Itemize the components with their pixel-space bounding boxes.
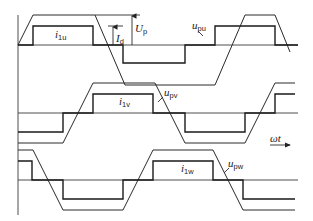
current-waveform-u [18, 26, 298, 63]
current-label-v: i1v [119, 95, 130, 109]
upv-leader-line [158, 97, 163, 102]
current-label-u: i1u [55, 28, 66, 42]
id-label: Id [115, 32, 124, 46]
panel-phase-u: i1u Id Up upu [18, 15, 298, 85]
voltage-label-w: upw [228, 157, 244, 171]
omega-t-label: ωt [270, 132, 282, 144]
current-label-w: i1w [181, 162, 194, 176]
three-phase-waveform-diagram: i1u Id Up upu i1v upv ωt i1w upw [0, 0, 313, 221]
up-label: Up [135, 22, 147, 36]
panel-phase-w: i1w upw [18, 150, 298, 210]
voltage-label-u: upu [192, 19, 206, 33]
voltage-label-v: upv [164, 86, 178, 100]
panel-phase-v: i1v upv ωt [18, 83, 298, 145]
